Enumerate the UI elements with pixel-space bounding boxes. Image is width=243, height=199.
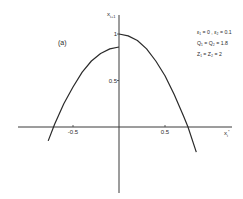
x-axis-label: xi* — [224, 129, 230, 138]
annotation-q: Q₁ = Q₂ = 1.8 — [197, 40, 228, 46]
chart: -0.50.510.5 (a) xi+1 xi* ε₁ = 0 , ε₂ = 0… — [0, 0, 243, 199]
x-tick-label: 0.5 — [161, 129, 170, 135]
y-axis-label: xi+1 — [107, 11, 116, 19]
annotation-z: Z₁ = Z₂ = 2 — [197, 51, 222, 57]
curve-right-branch — [119, 34, 196, 152]
annotation-epsilon: ε₁ = 0 , ε₂ = 0.1 — [197, 29, 232, 35]
y-tick-label: 0.5 — [109, 78, 118, 84]
x-tick-label: -0.5 — [68, 129, 79, 135]
panel-label: (a) — [58, 39, 67, 47]
parameter-annotations: ε₁ = 0 , ε₂ = 0.1 Q₁ = Q₂ = 1.8 Z₁ = Z₂ … — [197, 29, 232, 57]
